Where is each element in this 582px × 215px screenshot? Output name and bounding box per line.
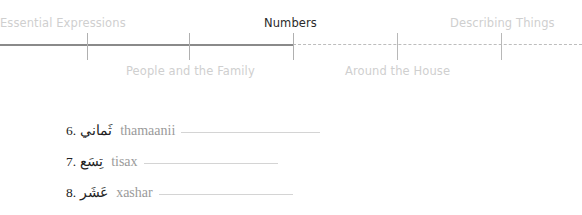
progress-line-completed (0, 44, 293, 46)
exercise-item: 8. عَشَر xashar (66, 184, 293, 208)
nav-essential-expressions[interactable]: Essential Expressions (0, 16, 126, 30)
exercise-item: 6. ثَماني thamaanii (66, 122, 320, 146)
arabic-word: عَشَر (80, 184, 108, 200)
chapter-progress-nav: Essential Expressions Numbers Describing… (0, 0, 582, 100)
progress-tick (87, 33, 88, 60)
nav-numbers-current[interactable]: Numbers (264, 16, 317, 30)
progress-tick (501, 33, 502, 60)
progress-tick-current (293, 33, 294, 60)
nav-around-the-house[interactable]: Around the House (345, 64, 450, 78)
transliteration: tisax (111, 154, 137, 170)
progress-line-remaining (293, 44, 582, 45)
nav-people-and-the-family[interactable]: People and the Family (126, 64, 255, 78)
exercise-item: 7. تِسَع tisax (66, 153, 278, 177)
transliteration: xashar (116, 185, 153, 201)
answer-blank[interactable] (181, 132, 320, 133)
progress-tick (397, 33, 398, 60)
progress-tick (189, 33, 190, 60)
arabic-word: تِسَع (80, 153, 103, 169)
transliteration: thamaanii (120, 123, 175, 139)
item-number: 7. (66, 154, 76, 170)
nav-describing-things[interactable]: Describing Things (450, 16, 555, 30)
item-number: 8. (66, 185, 76, 201)
answer-blank[interactable] (144, 163, 278, 164)
item-number: 6. (66, 123, 76, 139)
answer-blank[interactable] (159, 194, 293, 195)
arabic-word: ثَماني (80, 122, 112, 138)
